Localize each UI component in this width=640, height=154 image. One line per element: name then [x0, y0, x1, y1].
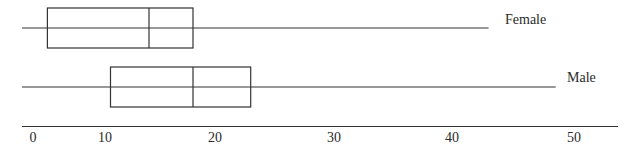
x-tick-label-0: 0	[30, 130, 37, 146]
x-tick-label-50: 50	[567, 130, 581, 146]
box-plot-chart: Female Male 0 10 20 30 40 50	[0, 0, 640, 154]
x-tick-label-40: 40	[445, 130, 459, 146]
series-label-male: Male	[567, 71, 596, 85]
series-label-female: Female	[505, 13, 546, 27]
x-tick-label-10: 10	[98, 130, 112, 146]
x-tick-label-30: 30	[327, 130, 341, 146]
x-tick-label-20: 20	[208, 130, 222, 146]
